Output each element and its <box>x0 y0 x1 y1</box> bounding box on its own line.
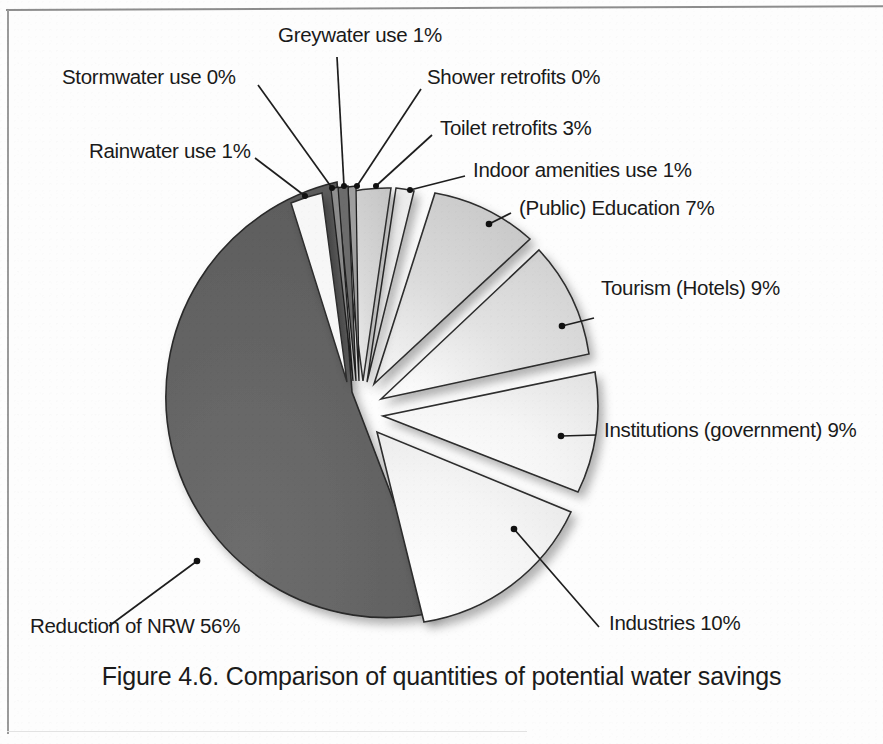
slice-label-shower-retrofits: Shower retrofits 0% <box>427 67 600 88</box>
slice-label-tourism-hotels: Tourism (Hotels) 9% <box>601 278 780 299</box>
slice-label-reduction-of-nrw: Reduction of NRW 56% <box>30 616 240 637</box>
slice-label-indoor-amenities-use: Indoor amenities use 1% <box>473 160 692 181</box>
slice-label-institutions-government: Institutions (government) 9% <box>604 420 857 441</box>
slice-label-public-education: (Public) Education 7% <box>519 198 714 219</box>
slice-label-toilet-retrofits: Toilet retrofits 3% <box>440 118 592 139</box>
slice-label-greywater-use: Greywater use 1% <box>278 25 442 46</box>
figure-page: Greywater use 1% Stormwater use 0% Showe… <box>0 0 883 744</box>
slice-label-rainwater-use: Rainwater use 1% <box>89 141 251 162</box>
slice-label-stormwater-use: Stormwater use 0% <box>62 67 236 88</box>
slice-label-industries: Industries 10% <box>609 613 740 634</box>
figure-caption: Figure 4.6. Comparison of quantities of … <box>0 662 883 691</box>
